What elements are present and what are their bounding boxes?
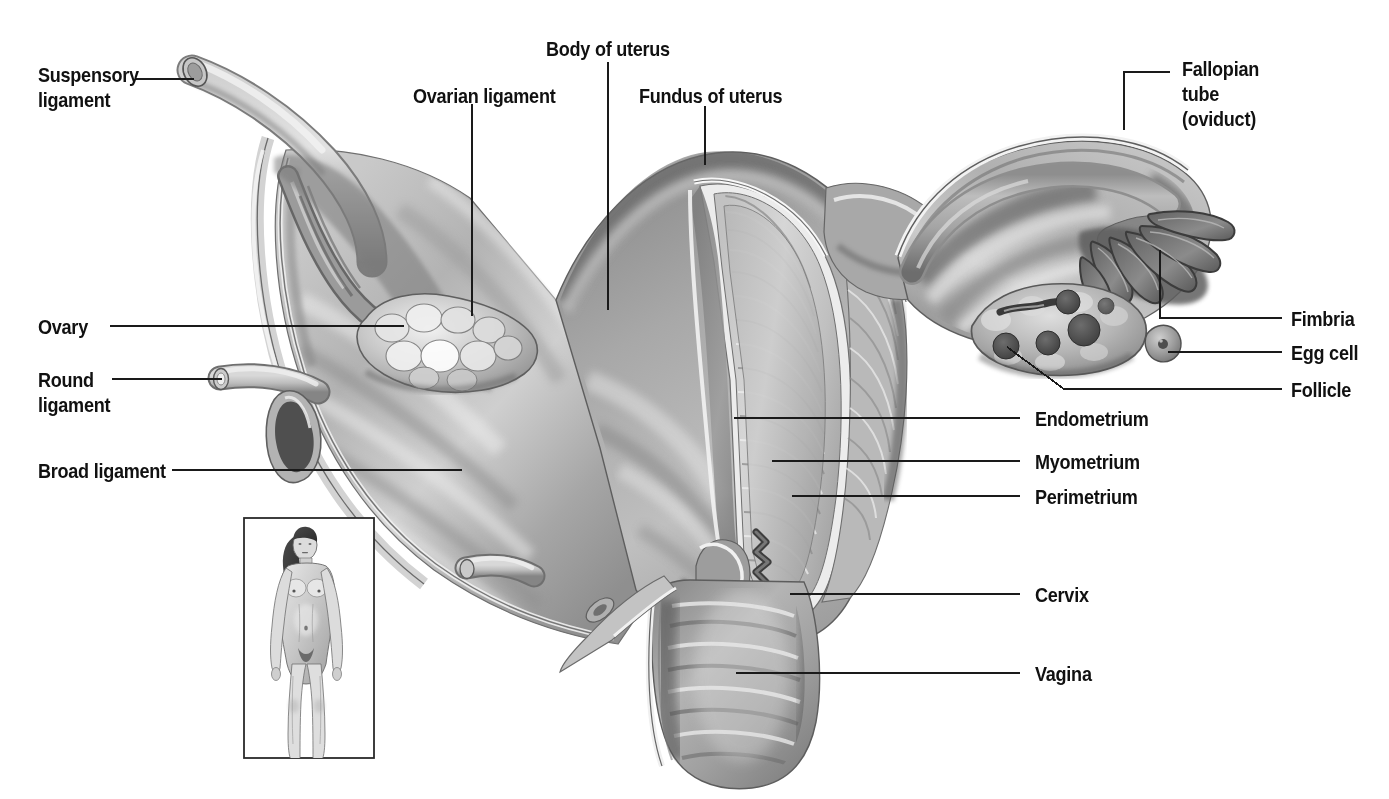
round-ligament-stub-lower xyxy=(460,558,534,578)
round-ligament-left xyxy=(214,369,319,393)
egg-cell xyxy=(1145,325,1181,362)
label-myometrium: Myometrium xyxy=(1035,449,1140,474)
label-suspensory-ligament: Suspensory ligament xyxy=(38,62,139,112)
label-follicle: Follicle xyxy=(1291,377,1351,402)
uterus-illustration xyxy=(0,0,1389,799)
label-vagina: Vagina xyxy=(1035,661,1092,686)
leader-fallopian-tube xyxy=(1124,72,1170,130)
label-round-ligament: Round ligament xyxy=(38,367,110,417)
label-fallopian-tube: Fallopian tube (oviduct) xyxy=(1182,56,1259,131)
anatomy-figure: Suspensory ligament Ovarian ligament Bod… xyxy=(0,0,1389,799)
body-figure-inset xyxy=(244,518,374,760)
label-ovary: Ovary xyxy=(38,314,88,339)
label-endometrium: Endometrium xyxy=(1035,406,1149,431)
label-perimetrium: Perimetrium xyxy=(1035,484,1138,509)
label-egg-cell: Egg cell xyxy=(1291,340,1358,365)
label-body-of-uterus: Body of uterus xyxy=(546,36,670,61)
label-broad-ligament: Broad ligament xyxy=(38,458,166,483)
label-fundus-of-uterus: Fundus of uterus xyxy=(639,83,782,108)
label-cervix: Cervix xyxy=(1035,582,1089,607)
vagina xyxy=(649,580,820,789)
label-fimbria: Fimbria xyxy=(1291,306,1354,331)
label-ovarian-ligament: Ovarian ligament xyxy=(413,83,555,108)
